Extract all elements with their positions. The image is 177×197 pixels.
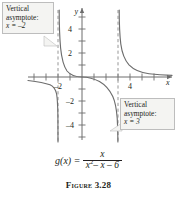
function-equation: g(x) = x x2– x – 6 — [0, 150, 177, 171]
callout-vertical-asymptote-right: Vertical asymptote: x = 3 — [120, 98, 175, 130]
curve-branch-right — [119, 10, 172, 75]
x-axis-label: x — [165, 78, 170, 87]
y-tick-label-minus-2: –2 — [65, 97, 74, 106]
y-axis-label: y — [74, 7, 79, 16]
x-tick-label-4: 4 — [128, 82, 132, 91]
y-tick-label-minus-4: –4 — [65, 121, 74, 130]
equation-numerator: x — [96, 150, 108, 160]
y-tick-label-2: 2 — [68, 49, 72, 58]
equation-fraction: x x2– x – 6 — [83, 150, 122, 171]
figure-caption: Figure 3.28 — [0, 180, 177, 190]
y-tick-label-4: 4 — [68, 25, 72, 34]
x-tick-label-minus-2: –2 — [53, 82, 62, 91]
y-axis — [79, 8, 86, 140]
callout-left-line3: x = –2 — [6, 22, 50, 31]
equation-function-name: g(x) — [55, 155, 71, 166]
figure-container: y x 4 2 –2 –4 –2 4 Vertical asymptote: x… — [0, 0, 177, 197]
equation-denominator: x2– x – 6 — [83, 161, 122, 171]
callout-right-line3: x = 3 — [124, 118, 171, 127]
equation-equals: = — [74, 155, 80, 166]
callout-left-tail — [44, 36, 57, 46]
equation-denominator-rest: – x – 6 — [93, 160, 119, 170]
callout-vertical-asymptote-left: Vertical asymptote: x = –2 — [2, 2, 54, 34]
